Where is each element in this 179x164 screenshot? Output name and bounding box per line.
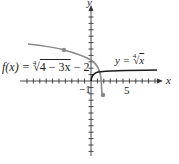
y-axis	[89, 8, 94, 156]
x-axis-arrow-icon	[157, 79, 163, 84]
x-axis-label: x	[166, 75, 171, 86]
fx-radicand: 4 − 3x	[40, 60, 71, 74]
point-f-left	[62, 48, 66, 52]
fx-root-index: 4	[33, 59, 37, 67]
y-axis-label: y	[87, 0, 92, 8]
yx-radicand: x	[139, 54, 144, 66]
fx-suffix: − 2	[71, 60, 90, 74]
chart-canvas	[0, 0, 179, 164]
tick-label-5: 5	[124, 85, 130, 96]
tick-label-neg1: −1	[79, 84, 91, 95]
annotation-fourth-root: y = 4√x	[115, 55, 144, 66]
fx-prefix: f(x) =	[2, 60, 33, 74]
yx-root-index: 4	[133, 52, 137, 60]
annotation-f: f(x) = 4√4 − 3x − 2	[2, 61, 89, 73]
yx-prefix: y =	[115, 54, 133, 66]
point-f-end	[101, 93, 105, 97]
